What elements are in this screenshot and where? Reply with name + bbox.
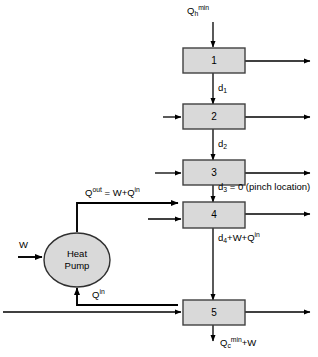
- interval-label-1: 1: [183, 56, 245, 66]
- label-d2: d2: [218, 139, 227, 149]
- label-d1: d1: [218, 83, 227, 93]
- label-d4: d4+W+Qin: [218, 233, 260, 243]
- interval-label-5: 5: [183, 308, 245, 318]
- label-hot-utility: Qhmin: [187, 6, 209, 16]
- label-cold-utility: Qcmin+W: [220, 338, 256, 348]
- heat-pump-label: Heat Pump: [44, 248, 110, 271]
- label-q-out: Qout = W+Qin: [85, 188, 140, 198]
- heat-cascade-diagram: [0, 0, 318, 357]
- heat-pump-label-line1: Heat: [67, 248, 87, 259]
- flow-q-out: [77, 203, 178, 232]
- interval-label-3: 3: [183, 168, 245, 178]
- label-q-in: Qin: [92, 290, 105, 300]
- interval-label-4: 4: [183, 210, 245, 220]
- heat-pump-label-line2: Pump: [65, 260, 90, 271]
- label-work: W: [19, 240, 28, 250]
- label-d3-pinch: d3 = 0 (pinch location): [218, 182, 310, 192]
- interval-label-2: 2: [183, 112, 245, 122]
